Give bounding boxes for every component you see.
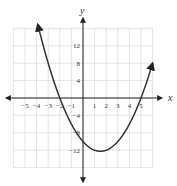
x-tick-label: 1 [93,102,97,110]
y-tick-label: 12 [73,42,81,50]
x-tick-label: −3 [44,102,52,110]
x-tick-label: −1 [68,102,76,110]
y-tick-label: −12 [69,147,80,155]
y-axis-label: y [79,5,85,16]
x-axis-label: x [167,92,173,103]
y-tick-label: 4 [77,77,81,85]
parabola-curve [38,24,153,151]
x-tick-label: 2 [104,102,108,110]
x-tick-label: 3 [116,102,120,110]
axes [6,18,162,182]
x-tick-label: −5 [21,102,29,110]
y-tick-label: 8 [77,60,81,68]
x-tick-label: 5 [139,102,143,110]
x-tick-label: −4 [33,102,41,110]
x-tick-label: 4 [128,102,132,110]
parabola-chart: −5−4−3−2−1123451284−4−8−12 x y [0,0,177,186]
y-tick-label: −4 [73,112,81,120]
